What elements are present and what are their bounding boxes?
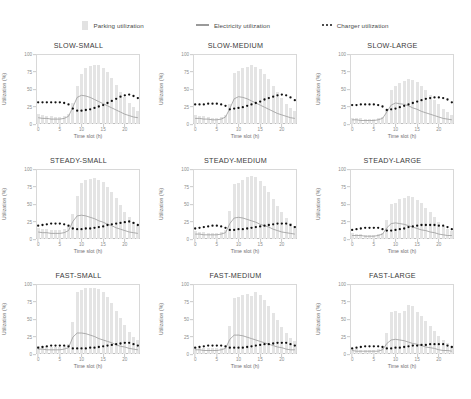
x-tick-label: 20	[436, 242, 441, 247]
dot-marker-charger	[89, 227, 91, 229]
x-tick-label: 0	[194, 242, 197, 247]
dot-marker-charger	[137, 344, 139, 346]
x-tick-label: 10	[236, 127, 241, 132]
dot-marker-charger	[106, 344, 108, 346]
dot-marker-charger	[403, 346, 405, 348]
x-tick-label: 15	[258, 127, 263, 132]
dot-marker-charger	[76, 228, 78, 230]
dot-marker-charger	[407, 345, 409, 347]
y-axis-ticks: 0255075100	[314, 169, 350, 239]
dot-marker-charger	[355, 104, 357, 106]
plot-area	[193, 54, 297, 124]
dot-marker-charger	[85, 109, 87, 111]
y-tick-label: 75	[27, 299, 32, 304]
dot-marker-charger	[137, 224, 139, 226]
dot-marker-charger	[220, 344, 222, 346]
x-tick-label: 5	[59, 127, 62, 132]
dot-marker-charger	[416, 344, 418, 346]
x-tick-label: 20	[122, 357, 127, 362]
dot-marker-charger	[46, 345, 48, 347]
x-axis-label: Time slot (h)	[350, 133, 454, 139]
dot-marker-charger	[106, 224, 108, 226]
y-tick-label: 50	[27, 202, 32, 207]
y-axis-ticks: 0255075100	[314, 54, 350, 124]
dot-marker-charger	[377, 345, 379, 347]
y-tick-label: 100	[181, 52, 189, 57]
dot-marker-charger	[412, 344, 414, 346]
x-axis-label: Time slot (h)	[350, 363, 454, 369]
dot-marker-charger	[263, 98, 265, 100]
y-tick-label: 25	[27, 334, 32, 339]
dot-marker-charger	[429, 224, 431, 226]
dot-marker-charger	[281, 342, 283, 344]
dot-marker-charger	[451, 101, 453, 103]
y-tick-label: 0	[343, 122, 346, 127]
dot-marker-charger	[294, 99, 296, 101]
dot-marker-charger	[124, 94, 126, 96]
y-tick-label: 0	[186, 237, 189, 242]
dot-marker-charger	[429, 97, 431, 99]
dot-marker-charger	[242, 228, 244, 230]
dot-marker-charger	[451, 228, 453, 230]
dot-marker-charger	[50, 222, 52, 224]
dot-marker-charger	[237, 347, 239, 349]
plot-area	[36, 54, 140, 124]
dot-marker-charger	[63, 223, 65, 225]
dot-marker-charger	[381, 346, 383, 348]
dot-marker-charger	[281, 222, 283, 224]
dot-marker-charger	[433, 96, 435, 98]
dot-marker-charger	[276, 94, 278, 96]
line-series-electricity	[195, 217, 295, 235]
dot-marker-charger	[268, 97, 270, 99]
y-axis-ticks: 0255075100	[0, 54, 36, 124]
x-tick-label: 0	[351, 242, 354, 247]
dot-marker-charger	[67, 225, 69, 227]
dot-marker-charger	[351, 347, 353, 349]
panel-grid: SLOW-SMALLUtilization (%)025507510005101…	[0, 36, 471, 399]
dot-marker-charger	[390, 347, 392, 349]
dot-marker-charger	[98, 346, 100, 348]
x-tick-label: 15	[101, 242, 106, 247]
y-tick-label: 100	[181, 282, 189, 287]
dot-marker-charger	[50, 344, 52, 346]
dot-marker-charger	[368, 103, 370, 105]
legend-label-electricity: Electricity utilization	[214, 22, 270, 29]
x-tick-label: 10	[393, 242, 398, 247]
dot-marker-charger	[229, 108, 231, 110]
dot-marker-charger	[289, 224, 291, 226]
x-axis-label: Time slot (h)	[193, 248, 297, 254]
line-series-electricity	[38, 215, 138, 233]
chart-panel: FAST-MEDIUMUtilization (%)02550751000510…	[157, 266, 314, 381]
chart-panel: FAST-SMALLUtilization (%)025507510005101…	[0, 266, 157, 381]
dot-marker-charger	[294, 344, 296, 346]
overlay-series	[36, 284, 140, 354]
y-axis-ticks: 0255075100	[157, 284, 193, 354]
dot-marker-charger	[111, 223, 113, 225]
dot-marker-charger	[220, 103, 222, 105]
x-tick-label: 0	[194, 357, 197, 362]
overlay-series	[193, 284, 297, 354]
dot-marker-charger	[285, 94, 287, 96]
line-series-electricity	[38, 95, 138, 119]
line-series-electricity	[352, 103, 452, 121]
y-tick-label: 50	[184, 202, 189, 207]
y-tick-label: 0	[29, 237, 32, 242]
line-series-electricity	[38, 333, 138, 350]
x-tick-label: 5	[59, 357, 62, 362]
figure-legend: Parking utilization Electricity utilizat…	[0, 14, 471, 36]
dot-marker-charger	[119, 96, 121, 98]
dot-marker-charger	[211, 344, 213, 346]
figure-canvas: Parking utilization Electricity utilizat…	[0, 0, 471, 399]
y-tick-label: 0	[186, 352, 189, 357]
dot-marker-charger	[211, 103, 213, 105]
dot-marker-charger	[272, 223, 274, 225]
y-tick-label: 25	[341, 104, 346, 109]
y-tick-label: 75	[27, 69, 32, 74]
dot-marker-charger	[242, 347, 244, 349]
dot-marker-charger	[416, 225, 418, 227]
dot-marker-charger	[102, 345, 104, 347]
dot-marker-charger	[373, 345, 375, 347]
dot-marker-charger	[364, 345, 366, 347]
dot-marker-charger	[438, 343, 440, 345]
panel-title: SLOW-LARGE	[314, 41, 471, 50]
